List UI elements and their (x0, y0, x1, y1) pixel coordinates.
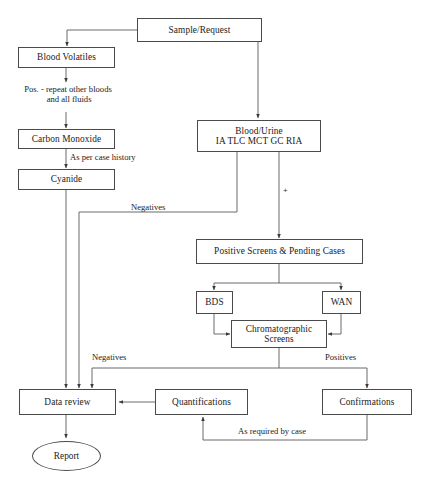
edge-label-plus: + (283, 186, 288, 195)
node-wan-label: WAN (331, 297, 352, 307)
edge-screens-to-bds (214, 264, 279, 290)
node-blood-urine-line1: Blood/Urine (235, 126, 283, 136)
node-report-label: Report (54, 451, 79, 461)
node-carbon-monoxide[interactable]: Carbon Monoxide (18, 129, 115, 149)
node-report[interactable]: Report (32, 441, 101, 471)
node-positive-screens-label: Positive Screens & Pending Cases (214, 246, 345, 256)
flowchart-canvas: Sample/Request Blood Volatiles Carbon Mo… (0, 0, 428, 484)
node-chromatographic-screens-line1: Chromatographic (246, 324, 313, 334)
node-confirmations[interactable]: Confirmations (322, 389, 412, 415)
node-bds-label: BDS (205, 297, 223, 307)
edge-label-as-required-by-case: As required by case (238, 426, 306, 436)
node-sample-request-label: Sample/Request (169, 25, 231, 35)
edge-bds-to-chromatographic (214, 314, 230, 334)
edge-label-positives: Positives (325, 352, 356, 362)
node-carbon-monoxide-label: Carbon Monoxide (32, 134, 101, 144)
node-data-review[interactable]: Data review (19, 389, 116, 415)
edge-chromatographic-positives-to-confirmations (279, 368, 367, 388)
node-blood-urine-line2: IA TLC MCT GC RIA (216, 136, 303, 146)
node-cyanide[interactable]: Cyanide (18, 169, 115, 190)
node-data-review-label: Data review (44, 397, 90, 407)
node-cyanide-label: Cyanide (51, 174, 83, 184)
node-blood-urine[interactable]: Blood/Urine IA TLC MCT GC RIA (197, 120, 321, 152)
node-blood-volatiles[interactable]: Blood Volatiles (18, 47, 115, 68)
edge-sample-to-blood-volatiles (67, 30, 137, 46)
node-quantifications-label: Quantifications (172, 397, 231, 407)
edge-label-negatives-lower: Negatives (92, 352, 126, 362)
node-quantifications[interactable]: Quantifications (155, 389, 248, 415)
node-positive-screens[interactable]: Positive Screens & Pending Cases (196, 239, 363, 264)
node-bds[interactable]: BDS (196, 291, 233, 314)
node-sample-request[interactable]: Sample/Request (137, 18, 262, 42)
node-chromatographic-screens-line2: Screens (264, 334, 294, 344)
node-wan[interactable]: WAN (322, 291, 361, 314)
node-chromatographic-screens[interactable]: Chromatographic Screens (231, 320, 327, 348)
edge-label-pos-repeat: Pos. - repeat other bloods and all fluid… (8, 84, 128, 104)
node-confirmations-label: Confirmations (339, 397, 394, 407)
node-blood-volatiles-label: Blood Volatiles (37, 52, 96, 62)
edge-label-as-per-case-history: As per case history (70, 152, 136, 162)
edge-label-negatives-upper: Negatives (131, 202, 165, 212)
edge-wan-to-chromatographic (328, 314, 341, 334)
edge-screens-to-wan (279, 283, 341, 290)
